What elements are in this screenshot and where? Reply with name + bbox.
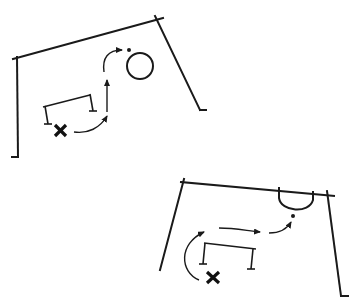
player-x-icon — [207, 272, 219, 283]
diagram-bottom-right — [160, 179, 348, 296]
target-circle-icon — [127, 53, 153, 79]
run-path-arrow — [74, 50, 122, 132]
hurdle-icon — [199, 243, 256, 269]
hurdle-icon — [43, 94, 97, 124]
ball-dot-icon — [127, 48, 131, 52]
drill-diagrams: Two schematic soccer/handball drill diag… — [0, 0, 354, 305]
run-path-arrow — [185, 222, 291, 280]
field-outline — [160, 179, 348, 296]
ball-dot-icon — [291, 214, 295, 218]
player-x-icon — [55, 125, 66, 136]
diagram-canvas — [0, 0, 354, 305]
diagram-top-left — [12, 16, 206, 157]
field-outline — [12, 16, 206, 157]
